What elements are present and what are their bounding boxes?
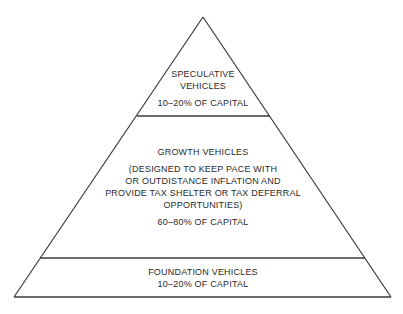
tier-description-line: OPPORTUNITIES) — [83, 199, 323, 211]
tier-allocation: 10–20% OF CAPITAL — [123, 278, 283, 290]
tier-speculative: SPECULATIVE VEHICLES 10–20% OF CAPITAL — [143, 68, 263, 109]
tier-description-line: OR OUTDISTANCE INFLATION AND — [83, 175, 323, 187]
tier-title-line: GROWTH VEHICLES — [83, 146, 323, 158]
tier-foundation: FOUNDATION VEHICLES 10–20% OF CAPITAL — [123, 266, 283, 290]
tier-description-line: (DESIGNED TO KEEP PACE WITH — [83, 163, 323, 175]
tier-growth: GROWTH VEHICLES (DESIGNED TO KEEP PACE W… — [83, 146, 323, 228]
tier-title-line: SPECULATIVE — [143, 68, 263, 80]
tier-title-line: VEHICLES — [143, 80, 263, 92]
tier-description-line: PROVIDE TAX SHELTER OR TAX DEFERRAL — [83, 187, 323, 199]
tier-allocation: 10–20% OF CAPITAL — [143, 97, 263, 109]
tier-allocation: 60–80% OF CAPITAL — [83, 216, 323, 228]
tier-title-line: FOUNDATION VEHICLES — [123, 266, 283, 278]
